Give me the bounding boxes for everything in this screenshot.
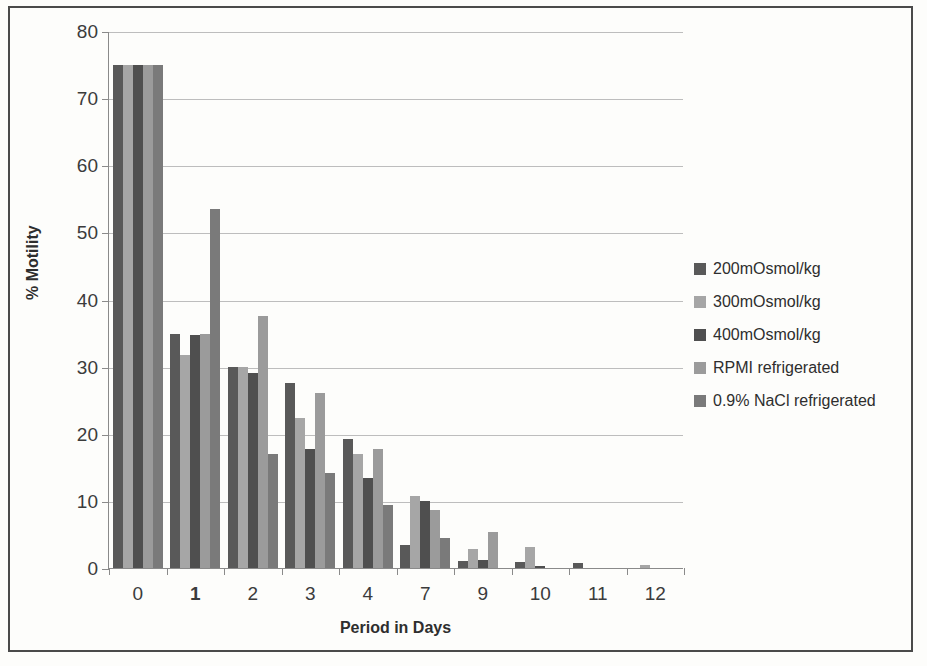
bar[interactable] <box>400 545 410 568</box>
plot-area: 010203040506070800123479101112 <box>108 32 683 569</box>
bar[interactable] <box>315 393 325 568</box>
x-axis-tick <box>109 568 110 575</box>
bar[interactable] <box>353 454 363 568</box>
x-axis-tick <box>512 568 513 575</box>
page-root: % Motility 01020304050607080012347910111… <box>0 0 927 666</box>
y-axis-tick <box>102 233 109 234</box>
bar-group <box>224 32 282 568</box>
bar[interactable] <box>440 538 450 568</box>
bar[interactable] <box>420 501 430 568</box>
y-axis-tick <box>102 435 109 436</box>
bar[interactable] <box>258 316 268 568</box>
x-axis-tick <box>167 568 168 575</box>
bar[interactable] <box>458 561 468 568</box>
bar[interactable] <box>285 383 295 568</box>
legend-item-label: 200mOsmol/kg <box>713 260 821 278</box>
y-axis-tick-label: 70 <box>77 88 98 110</box>
bar[interactable] <box>143 65 153 568</box>
x-axis-tick <box>224 568 225 575</box>
bar[interactable] <box>180 355 190 568</box>
bar-group <box>282 32 340 568</box>
chart-legend: 200mOsmol/kg300mOsmol/kg400mOsmol/kgRPMI… <box>694 252 909 417</box>
x-axis-tick <box>569 568 570 575</box>
bar[interactable] <box>170 334 180 568</box>
bar[interactable] <box>210 209 220 568</box>
bar[interactable] <box>190 335 200 568</box>
y-axis-tick <box>102 99 109 100</box>
legend-swatch-icon <box>694 263 706 275</box>
x-axis-tick-label: 2 <box>247 583 258 605</box>
y-axis-tick-label: 80 <box>77 21 98 43</box>
legend-item[interactable]: 300mOsmol/kg <box>694 285 909 318</box>
bar-chart: % Motility 01020304050607080012347910111… <box>0 0 927 666</box>
y-axis-tick-label: 40 <box>77 290 98 312</box>
y-axis-tick-label: 50 <box>77 222 98 244</box>
bar[interactable] <box>238 367 248 568</box>
x-axis-tick <box>282 568 283 575</box>
x-axis-tick-label: 3 <box>305 583 316 605</box>
bar[interactable] <box>525 547 535 568</box>
y-axis-tick-label: 0 <box>87 558 98 580</box>
bar-group <box>167 32 225 568</box>
bar[interactable] <box>430 510 440 568</box>
bar[interactable] <box>268 454 278 568</box>
bar[interactable] <box>228 367 238 568</box>
x-axis-tick-label: 12 <box>645 583 666 605</box>
legend-item-label: 300mOsmol/kg <box>713 293 821 311</box>
bar-group <box>569 32 627 568</box>
bar[interactable] <box>343 439 353 568</box>
legend-item-label: RPMI refrigerated <box>713 359 839 377</box>
y-axis-tick-label: 60 <box>77 155 98 177</box>
bar[interactable] <box>383 505 393 568</box>
bar[interactable] <box>535 566 545 568</box>
x-axis-tick-label: 10 <box>530 583 551 605</box>
bar[interactable] <box>468 549 478 568</box>
bar[interactable] <box>410 496 420 568</box>
bar[interactable] <box>325 473 335 568</box>
bar[interactable] <box>515 562 525 568</box>
bar-group <box>454 32 512 568</box>
legend-swatch-icon <box>694 362 706 374</box>
x-axis-tick-label: 1 <box>190 583 201 605</box>
legend-item-label: 0.9% NaCl refrigerated <box>713 392 876 410</box>
bar[interactable] <box>200 334 210 568</box>
bar[interactable] <box>363 478 373 568</box>
bar[interactable] <box>305 449 315 568</box>
bar[interactable] <box>373 449 383 568</box>
y-axis-tick <box>102 301 109 302</box>
legend-item-label: 400mOsmol/kg <box>713 326 821 344</box>
x-axis-tick <box>339 568 340 575</box>
legend-item[interactable]: 0.9% NaCl refrigerated <box>694 384 909 417</box>
y-axis-tick-label: 20 <box>77 424 98 446</box>
bar[interactable] <box>248 373 258 568</box>
bar[interactable] <box>573 563 583 568</box>
legend-swatch-icon <box>694 329 706 341</box>
bar[interactable] <box>478 560 488 568</box>
bar-group <box>339 32 397 568</box>
x-axis-tick-label: 9 <box>477 583 488 605</box>
x-axis-tick <box>627 568 628 575</box>
bar[interactable] <box>488 532 498 568</box>
legend-item[interactable]: RPMI refrigerated <box>694 351 909 384</box>
y-axis-tick <box>102 569 109 570</box>
x-axis-tick <box>454 568 455 575</box>
y-axis-tick <box>102 502 109 503</box>
bar[interactable] <box>123 65 133 568</box>
bar[interactable] <box>640 565 650 568</box>
bar-group <box>512 32 570 568</box>
x-axis-tick <box>397 568 398 575</box>
legend-swatch-icon <box>694 296 706 308</box>
y-axis-tick-label: 10 <box>77 491 98 513</box>
legend-item[interactable]: 400mOsmol/kg <box>694 318 909 351</box>
y-axis-tick-label: 30 <box>77 357 98 379</box>
x-axis-tick-label: 11 <box>588 583 608 605</box>
bar[interactable] <box>133 65 143 568</box>
bar[interactable] <box>153 65 163 568</box>
bar[interactable] <box>113 65 123 568</box>
y-axis-title: % Motility <box>24 225 42 300</box>
y-axis-tick <box>102 368 109 369</box>
bar[interactable] <box>295 418 305 568</box>
bar-group <box>627 32 685 568</box>
legend-item[interactable]: 200mOsmol/kg <box>694 252 909 285</box>
x-axis-tick <box>684 568 685 575</box>
